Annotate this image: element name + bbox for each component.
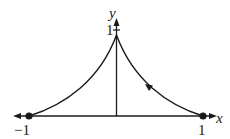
- point-left-endpoint: [25, 112, 32, 119]
- curve-right-branch: [117, 35, 204, 116]
- x-tick-label-1: 1: [198, 122, 206, 138]
- x-axis-label: x: [215, 110, 223, 126]
- diagram-canvas: y 1 −1 1 x: [0, 0, 230, 139]
- y-tick-label-1: 1: [106, 22, 114, 38]
- point-right-endpoint: [199, 112, 206, 119]
- x-tick-label-neg1: −1: [14, 122, 30, 138]
- curve-left-branch: [29, 35, 117, 116]
- y-axis-label: y: [107, 5, 116, 21]
- x-axis-left-arrow-icon: [13, 113, 21, 119]
